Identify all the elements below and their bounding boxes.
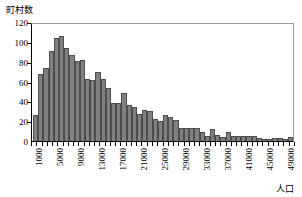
y-axis-tick-label: 40 [0, 98, 28, 107]
x-axis-title: 人口 [276, 184, 294, 194]
x-axis-tick-label: 5000 [56, 148, 65, 166]
x-axis-tick-mark [189, 142, 190, 146]
y-axis-title: 町村数 [6, 5, 33, 16]
x-axis-tick-label: 21000 [140, 148, 149, 171]
x-axis-tick-mark [268, 142, 269, 146]
bar-series [32, 24, 293, 141]
x-axis-tick-mark [205, 142, 206, 146]
x-axis-tick-label: 49000 [287, 148, 296, 171]
x-axis-tick-mark [110, 142, 111, 146]
x-axis-tick-mark [236, 142, 237, 146]
x-axis-tick-label: 9000 [77, 148, 86, 166]
y-axis-tick-label: 120 [0, 19, 28, 28]
x-axis-tick-mark [278, 142, 279, 146]
x-axis-tick-mark [68, 142, 69, 146]
x-axis-tick-mark [89, 142, 90, 146]
histogram-bar [288, 137, 293, 141]
x-axis-tick-mark [262, 142, 263, 146]
x-axis-tick-mark [42, 142, 43, 146]
x-axis-tick-mark [99, 142, 100, 146]
x-axis-tick-mark [252, 142, 253, 146]
histogram-chart: 町村数 020406080100120 10005000900013000170… [0, 0, 302, 197]
y-axis-tick-label: 60 [0, 79, 28, 88]
x-axis-tick-mark [210, 142, 211, 146]
x-axis-tick-mark [136, 142, 137, 146]
y-axis-tick-label: 100 [0, 39, 28, 48]
x-axis-tick-mark [273, 142, 274, 146]
x-axis-tick-label: 37000 [224, 148, 233, 171]
x-axis-tick-label: 1000 [35, 148, 44, 166]
x-axis-tick-label: 17000 [119, 148, 128, 171]
x-axis-tick-mark [31, 142, 32, 146]
x-axis-tick-mark [141, 142, 142, 146]
x-axis-tick-mark [131, 142, 132, 146]
x-axis-tick-mark [105, 142, 106, 146]
x-axis-tick-mark [78, 142, 79, 146]
x-axis-tick-label: 25000 [161, 148, 170, 171]
x-axis-tick-mark [36, 142, 37, 146]
x-axis-tick-mark [294, 142, 295, 146]
x-axis-tick-mark [126, 142, 127, 146]
x-axis-tick-mark [120, 142, 121, 146]
x-axis-tick-label: 29000 [182, 148, 191, 171]
x-axis-tick-mark [289, 142, 290, 146]
y-axis-tick-label: 20 [0, 118, 28, 127]
x-axis-tick-mark [173, 142, 174, 146]
x-axis-tick-mark [152, 142, 153, 146]
x-axis-tick-mark [194, 142, 195, 146]
x-axis-tick-mark [184, 142, 185, 146]
x-axis-tick-mark [57, 142, 58, 146]
x-axis-tick-mark [215, 142, 216, 146]
x-axis-tick-mark [178, 142, 179, 146]
x-axis-tick-mark [157, 142, 158, 146]
x-axis-tick-mark [241, 142, 242, 146]
x-axis-tick-mark [247, 142, 248, 146]
x-axis-tick-mark [115, 142, 116, 146]
x-axis-tick-mark [47, 142, 48, 146]
y-axis-tick-label: 80 [0, 59, 28, 68]
plot-area [31, 23, 294, 142]
x-axis-tick-mark [94, 142, 95, 146]
y-axis-tick-label: 0 [0, 138, 28, 147]
x-axis-tick-mark [283, 142, 284, 146]
x-axis-tick-label: 13000 [98, 148, 107, 171]
x-axis-tick-mark [257, 142, 258, 146]
x-axis-tick-mark [199, 142, 200, 146]
x-axis-tick-mark [63, 142, 64, 146]
x-axis-tick-mark [163, 142, 164, 146]
x-axis-tick-label: 41000 [245, 148, 254, 171]
x-axis-tick-mark [220, 142, 221, 146]
x-axis-tick-label: 33000 [203, 148, 212, 171]
x-axis-tick-mark [231, 142, 232, 146]
x-axis-tick-mark [84, 142, 85, 146]
x-axis-tick-mark [147, 142, 148, 146]
x-axis-tick-mark [168, 142, 169, 146]
x-axis-tick-label: 45000 [266, 148, 275, 171]
x-axis-tick-mark [52, 142, 53, 146]
x-axis-tick-mark [73, 142, 74, 146]
x-axis-tick-mark [226, 142, 227, 146]
